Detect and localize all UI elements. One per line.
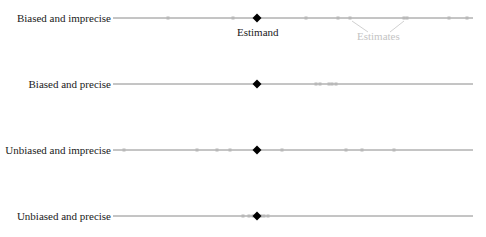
estimate-point	[229, 149, 232, 152]
estimate-point	[248, 215, 251, 218]
estimate-point	[406, 17, 409, 20]
estimate-point	[232, 17, 235, 20]
estimate-point	[337, 17, 340, 20]
estimate-point	[167, 17, 170, 20]
estimate-point	[403, 17, 406, 20]
diagram-row	[113, 146, 473, 155]
estimate-point	[216, 149, 219, 152]
rows-layer	[113, 14, 473, 221]
diagram-row	[113, 14, 473, 23]
estimate-point	[196, 149, 199, 152]
diagram-row	[113, 212, 473, 221]
estimate-point	[448, 17, 451, 20]
estimate-point	[331, 83, 334, 86]
estimate-point	[123, 149, 126, 152]
estimand-diamond-icon	[253, 14, 262, 23]
estimate-point	[242, 215, 245, 218]
estimate-point	[315, 83, 318, 86]
estimate-point	[335, 83, 338, 86]
estimate-point	[361, 149, 364, 152]
estimate-point	[281, 149, 284, 152]
estimates-annotation: Estimates	[357, 30, 400, 42]
estimand-diamond-icon	[253, 80, 262, 89]
estimate-point	[393, 149, 396, 152]
estimate-point	[305, 17, 308, 20]
diagram-row	[113, 80, 473, 89]
estimate-point	[466, 17, 469, 20]
estimate-point	[328, 83, 331, 86]
estimate-point	[267, 215, 270, 218]
estimand-annotation: Estimand	[237, 26, 279, 38]
estimate-point	[319, 83, 322, 86]
estimate-point	[263, 215, 266, 218]
estimand-diamond-icon	[253, 212, 262, 221]
estimate-point	[345, 149, 348, 152]
estimand-diamond-icon	[253, 146, 262, 155]
estimate-point	[349, 17, 352, 20]
